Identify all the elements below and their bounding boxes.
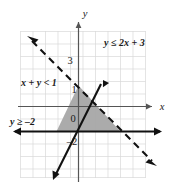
inequality-label-2: x + y < 1 xyxy=(20,77,57,88)
inequality-label-1: y ≤ 2x + 3 xyxy=(103,37,145,48)
y-tick-label-3: 3 xyxy=(67,55,72,66)
figure-container: 3 1 0 –2 x y y ≤ 2x + 3 x + y < 1 y ≥ –2 xyxy=(0,0,175,195)
origin-label: 0 xyxy=(70,113,75,124)
x-axis-label: x xyxy=(159,101,165,112)
inequality-label-3: y ≥ –2 xyxy=(9,116,35,127)
y-axis-label: y xyxy=(82,8,88,19)
y-tick-label-1: 1 xyxy=(71,84,76,95)
y-tick-label-neg2: –2 xyxy=(66,136,78,147)
line-x-plus-y-equals-1 xyxy=(27,36,157,166)
y-axis-arrow xyxy=(76,22,82,28)
inequality-graph: 3 1 0 –2 x y y ≤ 2x + 3 x + y < 1 y ≥ –2 xyxy=(0,0,175,195)
x-axis-arrow xyxy=(146,104,152,110)
